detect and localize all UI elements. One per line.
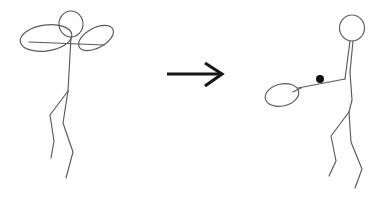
canvas-background xyxy=(0,0,384,197)
stick-figure-scene xyxy=(0,0,384,197)
ball-dot-icon xyxy=(316,75,324,83)
drawing-canvas xyxy=(0,0,384,197)
